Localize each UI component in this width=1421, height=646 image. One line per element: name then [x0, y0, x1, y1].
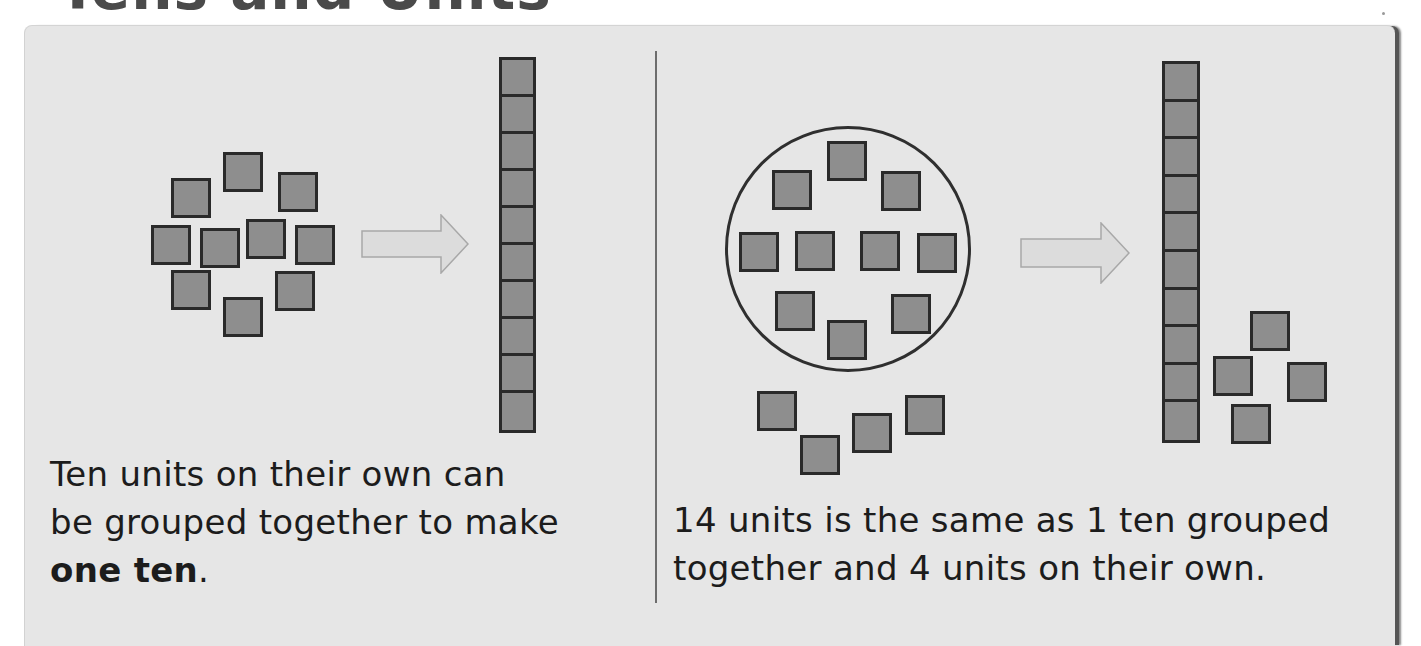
- left-caption-line-1: Ten units on their own can: [50, 450, 559, 498]
- rod-cell: [1165, 214, 1197, 252]
- unit-block: [246, 219, 286, 259]
- unit-block: [275, 271, 315, 311]
- unit-block: [860, 231, 900, 271]
- rod-cell: [1165, 327, 1197, 365]
- rod-cell: [1165, 139, 1197, 177]
- unit-block: [905, 395, 945, 435]
- ten-rod-right: [1162, 61, 1200, 443]
- rod-cell: [1165, 252, 1197, 290]
- left-caption-emphasis: one ten: [50, 550, 198, 590]
- unit-block: [171, 178, 211, 218]
- unit-block: [171, 270, 211, 310]
- rod-cell: [1165, 290, 1197, 328]
- rod-cell: [1165, 177, 1197, 215]
- unit-block: [223, 297, 263, 337]
- right-caption: 14 units is the same as 1 ten grouped to…: [673, 496, 1330, 592]
- right-arrow-icon: [1020, 222, 1130, 284]
- right-caption-line-2: together and 4 units on their own.: [673, 544, 1330, 592]
- unit-block: [1231, 404, 1271, 444]
- rod-cell: [502, 97, 533, 134]
- left-caption-period: .: [198, 550, 209, 590]
- rod-cell: [502, 208, 533, 245]
- ten-rod-left: [499, 57, 536, 433]
- rod-cell: [1165, 402, 1197, 440]
- right-arrow-icon: [361, 214, 469, 274]
- unit-block: [775, 291, 815, 331]
- unit-block: [757, 391, 797, 431]
- unit-block: [295, 225, 335, 265]
- rod-cell: [502, 393, 533, 430]
- unit-block: [827, 141, 867, 181]
- rod-cell: [502, 282, 533, 319]
- rod-cell: [502, 319, 533, 356]
- unit-block: [1213, 356, 1253, 396]
- unit-block: [852, 413, 892, 453]
- unit-block: [1250, 311, 1290, 351]
- unit-block: [795, 231, 835, 271]
- unit-block: [1287, 362, 1327, 402]
- unit-block: [200, 228, 240, 268]
- rod-cell: [502, 356, 533, 393]
- rod-cell: [1165, 365, 1197, 403]
- unit-block: [772, 170, 812, 210]
- rod-cell: [1165, 64, 1197, 102]
- rod-cell: [502, 245, 533, 282]
- rod-cell: [502, 171, 533, 208]
- unit-block: [800, 435, 840, 475]
- left-caption-line-3: one ten.: [50, 546, 559, 594]
- unit-block: [891, 294, 931, 334]
- rod-cell: [1165, 102, 1197, 140]
- left-caption: Ten units on their own can be grouped to…: [50, 450, 559, 594]
- rod-cell: [502, 60, 533, 97]
- left-caption-line-2: be grouped together to make: [50, 498, 559, 546]
- unit-block: [278, 172, 318, 212]
- unit-block: [881, 171, 921, 211]
- unit-block: [917, 233, 957, 273]
- rod-cell: [502, 134, 533, 171]
- right-caption-line-1: 14 units is the same as 1 ten grouped: [673, 496, 1330, 544]
- unit-block: [827, 320, 867, 360]
- unit-block: [739, 232, 779, 272]
- unit-block: [151, 225, 191, 265]
- unit-block: [223, 152, 263, 192]
